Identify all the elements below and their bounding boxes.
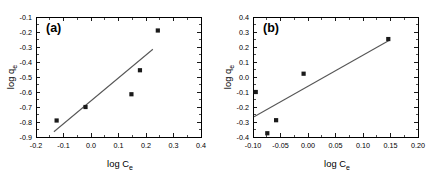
panel-b-yticklabel: 0.2 — [239, 43, 249, 52]
panel-a-xticklabel: 0.2 — [141, 141, 151, 150]
panel-b-data-point — [274, 118, 278, 122]
panel-a-yticklabel: -0.6 — [20, 88, 32, 97]
svg-text:log Ce: log Ce — [107, 158, 133, 171]
panel-a-yticklabel: -0.5 — [20, 73, 32, 82]
panel-b-xlabel-sub: e — [346, 164, 350, 171]
panel-b-data-point — [302, 72, 306, 76]
panel-a-yticklabel: -0.9 — [20, 133, 32, 142]
panel-b-yticklabel: -0.1 — [237, 88, 249, 97]
panel-b-yticklabel: -0.2 — [237, 103, 249, 112]
panel-a-y-axis-title: log qe — [5, 65, 18, 89]
panel-b-xticklabel: 0.15 — [384, 141, 398, 150]
panel-a-xticklabel: 0.3 — [169, 141, 179, 150]
panel-a-xticklabel: 0.4 — [196, 141, 206, 150]
panel-a-yticklabel: -0.8 — [20, 118, 32, 127]
panel-a-data-point — [83, 105, 87, 109]
panel-a: -0.2-0.10.00.10.20.30.4-0.9-0.8-0.7-0.6-… — [0, 0, 217, 180]
panel-b-data-point — [265, 131, 269, 135]
panel-a-label: (a) — [46, 21, 61, 35]
panel-a-fit-line — [54, 49, 153, 132]
panel-b-xticklabel: 0.05 — [329, 141, 343, 150]
panel-a-frame-rect — [36, 17, 201, 137]
panel-a-xticklabel: -0.2 — [30, 141, 42, 150]
panel-a-data-point — [129, 92, 133, 96]
panel-b-ylabel-text: log q — [222, 69, 233, 89]
panel-b-yticklabel: 0.4 — [239, 13, 249, 22]
panel-a-data-points — [55, 28, 160, 122]
panel-b-yticklabel: 0.1 — [239, 58, 249, 67]
panel-b-xticklabel: 0.10 — [356, 141, 370, 150]
scatter-plot-figure: -0.2-0.10.00.10.20.30.4-0.9-0.8-0.7-0.6-… — [0, 0, 434, 180]
svg-text:log Ce: log Ce — [324, 158, 350, 171]
panel-a-yticklabel: -0.7 — [20, 103, 32, 112]
panel-b-yticklabel: -0.4 — [237, 133, 249, 142]
panel-a-xticklabel: 0.0 — [86, 141, 96, 150]
panel-a-regression-line — [54, 49, 153, 132]
panel-b-yticklabel: 0.3 — [239, 28, 249, 37]
panel-a-yticklabel: -0.4 — [20, 58, 32, 67]
panel-b-label: (b) — [263, 21, 279, 35]
svg-text:log qe: log qe — [5, 65, 18, 89]
panel-b-xlabel-text: log C — [324, 158, 346, 169]
panel-a-ylabel-text: log q — [5, 69, 16, 89]
panel-b-xticklabel: -0.05 — [272, 141, 288, 150]
panel-b-data-point — [386, 37, 390, 41]
panel-b-yticklabel: -0.3 — [237, 118, 249, 127]
panel-a-data-point — [138, 68, 142, 72]
panel-a-x-axis-title: log Ce — [107, 158, 133, 171]
svg-text:log qe: log qe — [222, 65, 235, 89]
panel-b: -0.10-0.050.000.050.100.150.20-0.4-0.3-0… — [217, 0, 434, 180]
panel-a-xlabel-sub: e — [129, 164, 133, 171]
panel-a-yticklabel: -0.3 — [20, 43, 32, 52]
panel-b-y-axis-title: log qe — [222, 65, 235, 89]
panel-b-ylabel-sub: e — [228, 65, 235, 69]
panel-b-regression-line — [254, 40, 389, 117]
panel-b-data-point — [254, 90, 258, 94]
panel-b-xticklabel: 0.00 — [301, 141, 315, 150]
panel-b-x-axis-title: log Ce — [324, 158, 350, 171]
panel-b-yticklabel: 0.0 — [239, 73, 249, 82]
panel-b-canvas: -0.10-0.050.000.050.100.150.20-0.4-0.3-0… — [217, 0, 434, 180]
panel-a-data-point — [156, 28, 160, 32]
panel-b-xticklabel: 0.20 — [411, 141, 425, 150]
panel-a-data-point — [55, 118, 59, 122]
panel-a-ylabel-sub: e — [11, 65, 18, 69]
panel-a-canvas: -0.2-0.10.00.10.20.30.4-0.9-0.8-0.7-0.6-… — [0, 0, 217, 180]
panel-a-yticklabel: -0.2 — [20, 28, 32, 37]
panel-b-fit-line — [254, 40, 389, 117]
panel-a-plot-frame — [36, 17, 201, 137]
panel-a-xlabel-text: log C — [107, 158, 129, 169]
panel-a-xticklabel: 0.1 — [114, 141, 124, 150]
panel-a-yticklabel: -0.1 — [20, 13, 32, 22]
panel-a-xticklabel: -0.1 — [57, 141, 69, 150]
panel-b-xticklabel: -0.10 — [245, 141, 261, 150]
